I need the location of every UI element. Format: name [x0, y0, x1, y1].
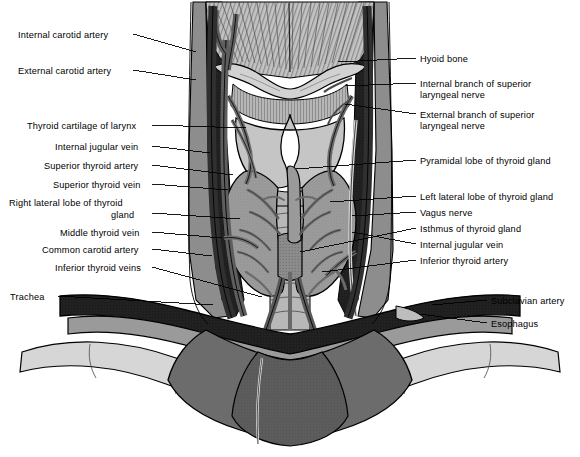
label-isthmus-of-thyroid-gland: Isthmus of thyroid gland	[420, 224, 521, 235]
label-middle-thyroid-vein: Middle thyroid vein	[60, 228, 139, 239]
label-thyroid-cartilage-of-larynx: Thyroid cartilage of larynx	[27, 121, 136, 132]
label-external-branch-sln-line2: laryngeal nerve	[420, 121, 485, 132]
label-left-lateral-lobe-of-thyroid-gland: Left lateral lobe of thyroid gland	[420, 192, 553, 203]
label-superior-thyroid-artery: Superior thyroid artery	[44, 161, 138, 172]
label-internal-jugular-vein-left: Internal jugular vein	[55, 142, 138, 153]
label-right-lateral-lobe-line1: Right lateral lobe of thyroid	[9, 198, 123, 209]
label-internal-jugular-vein-right: Internal jugular vein	[420, 240, 503, 251]
label-inferior-thyroid-artery: Inferior thyroid artery	[420, 256, 508, 267]
leader-internal-carotid-artery	[133, 34, 196, 52]
label-internal-branch-sln-line2: laryngeal nerve	[420, 90, 485, 101]
label-hyoid-bone: Hyoid bone	[420, 54, 468, 65]
sternum	[232, 352, 348, 446]
label-esophagus: Esophagus	[491, 319, 538, 330]
label-common-carotid-artery: Common carotid artery	[42, 245, 139, 256]
label-inferior-thyroid-veins: Inferior thyroid veins	[55, 263, 141, 274]
anatomy-figure: Internal carotid arteryExternal carotid …	[0, 0, 580, 457]
leader-external-carotid-artery	[133, 70, 196, 80]
label-internal-carotid-artery: Internal carotid artery	[18, 30, 108, 41]
label-right-lateral-lobe-line2: gland	[111, 210, 134, 221]
pyramidal-lobe-of-thyroid-gland	[287, 166, 301, 243]
label-external-branch-sln-line1: External branch of superior	[420, 110, 534, 121]
label-pyramidal-lobe-of-thyroid-gland: Pyramidal lobe of thyroid gland	[420, 156, 551, 167]
label-subclavian-artery: Subclavian artery	[491, 296, 565, 307]
label-vagus-nerve: Vagus nerve	[420, 208, 473, 219]
label-trachea: Trachea	[10, 292, 44, 303]
label-internal-branch-sln-line1: Internal branch of superior	[420, 79, 531, 90]
label-external-carotid-artery: External carotid artery	[18, 66, 111, 77]
label-superior-thyroid-vein: Superior thyroid vein	[53, 180, 140, 191]
